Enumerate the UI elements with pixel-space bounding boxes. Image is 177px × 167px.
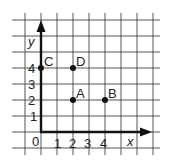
y-axis-arrow-icon [37, 20, 46, 32]
x-tick-4: 4 [100, 136, 107, 151]
y-tick-3: 3 [28, 77, 35, 92]
y-tick-4: 4 [28, 61, 35, 76]
y-tick-1: 1 [30, 109, 37, 124]
y-tick-2: 2 [28, 93, 35, 108]
point-b-label: B [108, 86, 117, 101]
coordinate-grid-diagram: y x 4 3 2 1 0 1 2 3 4 A B C D [0, 0, 177, 167]
origin-label: 0 [32, 134, 39, 149]
x-axis-arrow-icon [140, 128, 152, 137]
x-tick-2: 2 [69, 136, 76, 151]
x-axis-label: x [126, 134, 134, 149]
x-tick-1: 1 [54, 136, 61, 151]
point-d-label: D [76, 54, 85, 69]
point-c-label: C [44, 54, 53, 69]
x-tick-3: 3 [84, 136, 91, 151]
point-a-label: A [76, 86, 85, 101]
